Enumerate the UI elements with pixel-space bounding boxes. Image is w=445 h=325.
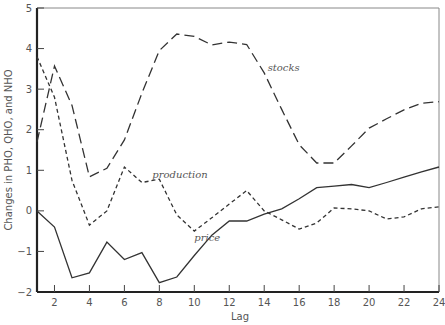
y-tick-label: −2 [17, 287, 32, 298]
series-production-label: production [152, 169, 207, 180]
series-stocks-label: stocks [268, 62, 300, 73]
plot-frame [37, 8, 439, 292]
x-tick-label: 12 [223, 297, 236, 308]
x-tick-label: 20 [363, 297, 376, 308]
x-tick-label: 6 [121, 297, 127, 308]
x-tick-label: 10 [188, 297, 201, 308]
x-tick-label: 14 [258, 297, 271, 308]
y-tick-label: 1 [26, 165, 32, 176]
series-production-line [37, 57, 439, 231]
x-tick-label: 8 [156, 297, 162, 308]
y-tick-label: 4 [26, 43, 32, 54]
y-tick-label: 3 [26, 84, 32, 95]
y-tick-label: 2 [26, 124, 32, 135]
series-labels: stocksproductionprice [152, 62, 299, 243]
y-tick-label: −1 [17, 246, 32, 257]
y-tick-label: 5 [26, 3, 32, 14]
y-axis-title: Changes in PHO, QHO, and NHO [3, 69, 14, 230]
x-tick-label: 22 [398, 297, 411, 308]
x-tick-label: 18 [328, 297, 341, 308]
series-stocks-line [37, 34, 439, 177]
x-axis-title: Lag [231, 311, 249, 322]
x-tick-label: 4 [86, 297, 92, 308]
x-tick-label: 16 [293, 297, 306, 308]
line-chart: −2−1012345 24681012141618202224 stockspr… [0, 0, 445, 325]
series-lines [37, 34, 439, 283]
series-price-line [37, 167, 439, 283]
x-tick-label: 24 [433, 297, 445, 308]
y-axis: −2−1012345 [17, 3, 44, 298]
x-axis: 24681012141618202224 [37, 285, 445, 308]
series-price-label: price [194, 232, 220, 243]
y-tick-label: 0 [26, 205, 32, 216]
x-tick-label: 2 [51, 297, 57, 308]
